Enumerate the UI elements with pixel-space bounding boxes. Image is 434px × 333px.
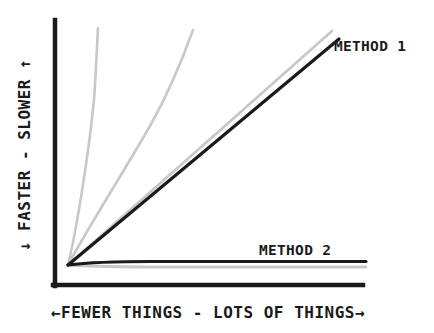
series-steep-curve-b — [68, 30, 193, 265]
series-label-method-1: METHOD 1 — [334, 38, 406, 54]
y-axis-label: ↓ FASTER - SLOWER ↑ — [15, 59, 34, 252]
secondary-series-group — [68, 28, 366, 267]
series-label-method-2: METHOD 2 — [259, 242, 331, 258]
x-axis-label: ←FEWER THINGS - LOTS OF THINGS→ — [51, 303, 365, 322]
series-method-1 — [68, 39, 339, 265]
chart-container: METHOD 1 METHOD 2 ←FEWER THINGS - LOTS O… — [0, 0, 434, 333]
primary-series-group — [68, 39, 366, 265]
series-steep-curve-a — [68, 28, 98, 265]
series-method-2 — [68, 262, 366, 266]
series-method-2-band — [68, 265, 366, 267]
chart-canvas: METHOD 1 METHOD 2 ←FEWER THINGS - LOTS O… — [0, 0, 434, 333]
